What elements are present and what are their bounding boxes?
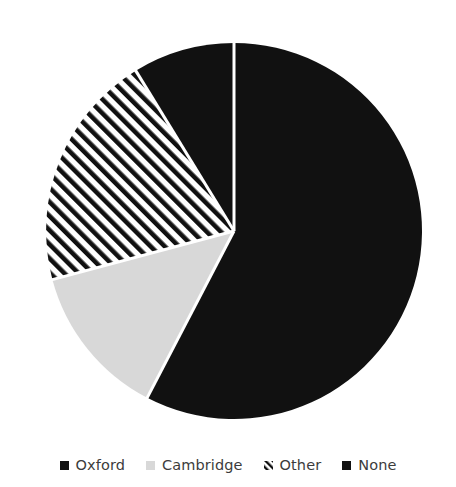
pie-chart-canvas (0, 0, 456, 440)
legend-item-cambridge[interactable]: Cambridge (146, 458, 243, 473)
square-marker-solid-dark (60, 461, 69, 470)
legend-item-oxford[interactable]: Oxford (60, 458, 125, 473)
legend-item-label: Other (280, 458, 322, 473)
square-marker-diagonal-hatch (264, 461, 273, 470)
legend-item-label: None (358, 458, 396, 473)
legend-item-label: Oxford (76, 458, 125, 473)
legend-item-label: Cambridge (162, 458, 243, 473)
pie-chart-figure: OxfordCambridgeOtherNone (0, 0, 456, 487)
legend-item-other[interactable]: Other (264, 458, 322, 473)
square-marker-solid-dark (342, 461, 351, 470)
square-marker-light-gray (146, 461, 155, 470)
legend-item-none[interactable]: None (342, 458, 396, 473)
chart-legend: OxfordCambridgeOtherNone (0, 452, 456, 478)
